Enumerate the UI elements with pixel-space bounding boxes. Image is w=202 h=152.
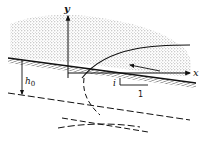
dashed-line-bed-extension [8,93,190,120]
dashed-curve-lower [58,124,140,128]
x-axis-label: x [193,67,199,78]
curve-dashed-extension [84,78,100,115]
diagram-canvas: i 1 h0 y x [0,0,202,152]
slope-label-i: i [113,78,116,88]
slope-label-run: 1 [138,90,143,99]
depth-label: h0 [25,76,35,88]
y-axis-label: y [63,3,71,14]
dashed-line-middle [62,118,148,132]
